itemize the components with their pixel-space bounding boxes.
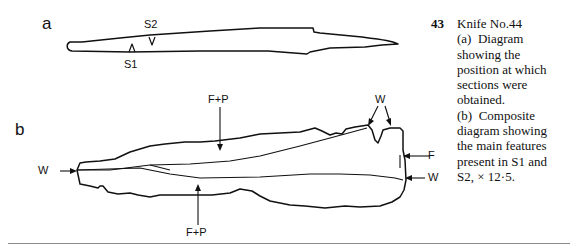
knife-diagram-svg (0, 0, 430, 246)
caption-line: (b) Composite (457, 108, 575, 123)
caption-line: Knife No.44 (457, 16, 575, 31)
f-p-bottom-label: F+P (186, 226, 206, 238)
section-outer-outline (77, 125, 406, 208)
caption-line: present in S1 and (457, 154, 575, 169)
arrow-heads (70, 118, 412, 191)
section-inner-line-mid (150, 165, 170, 170)
s2-label: S2 (144, 18, 157, 30)
caption-line: the main features (457, 138, 575, 153)
s1-label: S1 (124, 58, 137, 70)
knife-figure: a S2 S1 b F+P F+P W W F W (0, 0, 430, 246)
caption-line: S2, × 12·5. (457, 169, 575, 184)
caption-line: obtained. (457, 92, 575, 107)
section-inner-line-lower (77, 168, 403, 180)
caption-line: diagram showing (457, 123, 575, 138)
caption-line: sections were (457, 77, 575, 92)
w-top-label: W (375, 93, 385, 105)
panel-a-label: a (42, 14, 51, 34)
f-p-top-label: F+P (208, 93, 228, 105)
caption-line: showing the (457, 47, 575, 62)
w-left-label: W (38, 164, 48, 176)
page-rule (8, 243, 570, 244)
w-right-label: W (428, 171, 438, 183)
figure-number: 43 (431, 16, 444, 31)
caption-line: position at which (457, 62, 575, 77)
section-inner-line-upper (77, 128, 367, 170)
knife-outline-a (67, 28, 398, 54)
annotation-arrows (60, 106, 430, 225)
s1-marker (129, 44, 135, 52)
panel-b-label: b (15, 120, 24, 140)
caption-line: (a) Diagram (457, 31, 575, 46)
s2-marker (149, 37, 155, 45)
f-right-label: F (428, 149, 435, 161)
figure-caption: 43 Knife No.44 (a) Diagram showing the p… (457, 16, 575, 184)
